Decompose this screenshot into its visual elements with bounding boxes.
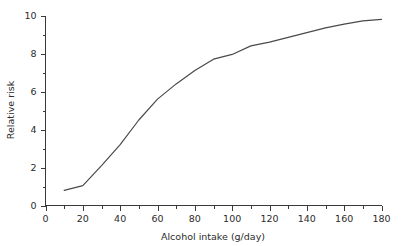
axes-group <box>46 16 382 206</box>
x-tick-label: 140 <box>298 213 316 224</box>
relative-risk-line-chart: 020406080100120140160180 0246810 Alcohol… <box>0 0 401 246</box>
x-tick-label: 180 <box>372 213 390 224</box>
x-tick-label: 120 <box>260 213 278 224</box>
y-axis-title: Relative risk <box>5 80 16 139</box>
x-tick-label: 0 <box>42 213 48 224</box>
x-axis-title: Alcohol intake (g/day) <box>161 231 265 242</box>
y-tick-label: 2 <box>30 162 36 173</box>
y-tick-label: 0 <box>30 200 36 211</box>
series-line-relative-risk <box>64 19 381 190</box>
x-tick-label: 40 <box>114 213 126 224</box>
x-tick-label: 20 <box>77 213 89 224</box>
chart-canvas: 020406080100120140160180 0246810 Alcohol… <box>0 0 401 246</box>
x-axis-tick-labels: 020406080100120140160180 <box>42 213 390 224</box>
y-tick-label: 6 <box>30 86 36 97</box>
y-tick-label: 10 <box>24 10 36 21</box>
y-axis-ticks <box>41 17 46 207</box>
x-tick-label: 60 <box>151 213 163 224</box>
x-axis-ticks <box>47 206 383 211</box>
x-tick-label: 80 <box>189 213 201 224</box>
data-series-group <box>64 19 381 190</box>
y-tick-label: 4 <box>30 124 36 135</box>
x-tick-label: 160 <box>335 213 353 224</box>
x-tick-label: 100 <box>223 213 241 224</box>
y-axis-tick-labels: 0246810 <box>24 10 36 211</box>
y-tick-label: 8 <box>30 48 36 59</box>
